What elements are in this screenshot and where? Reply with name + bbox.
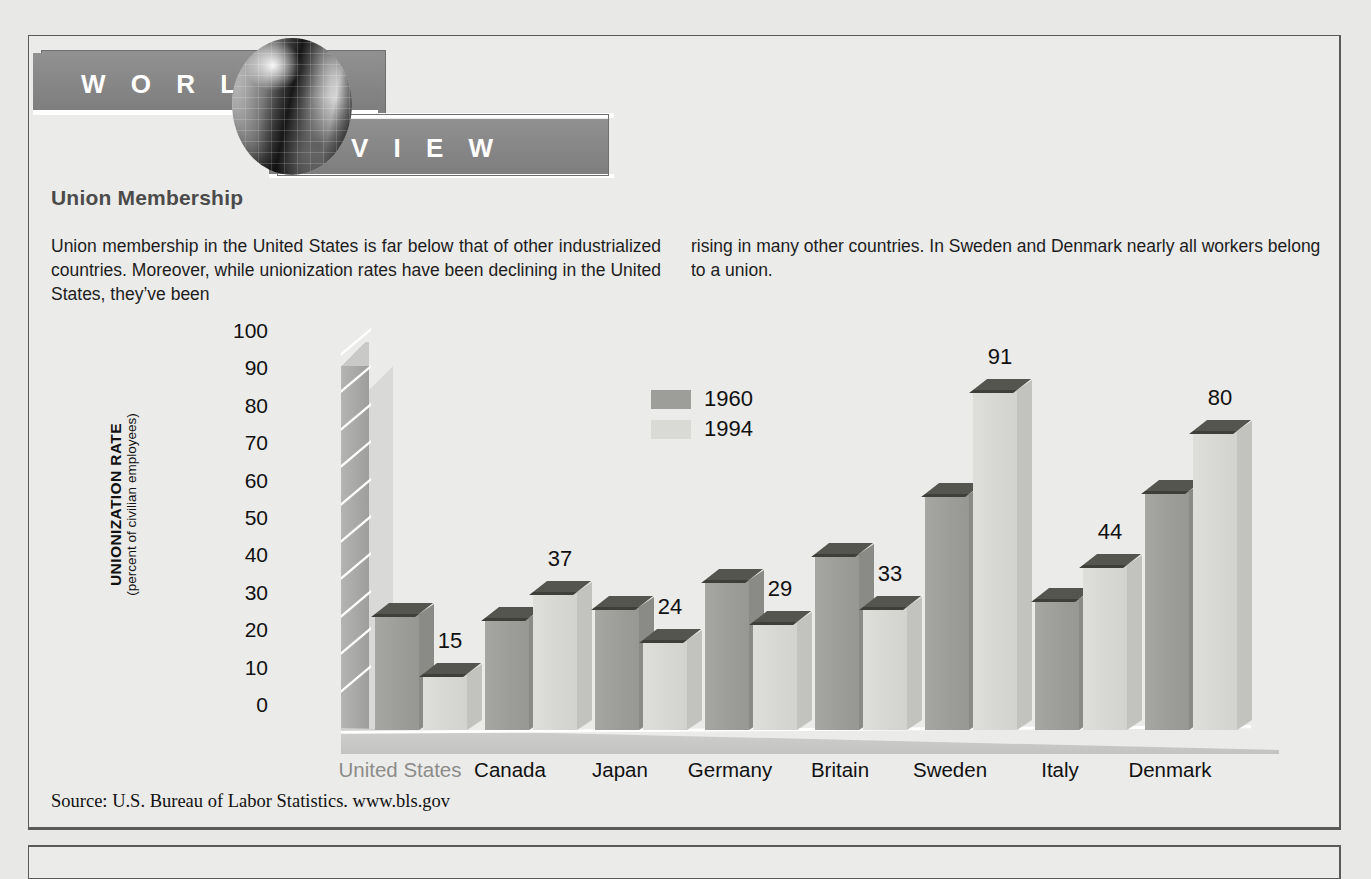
bar-value-label: 37 [525,546,595,572]
x-axis-labels: United StatesCanadaJapanGermanyBritainSw… [341,758,1301,788]
y-tick-label: 10 [216,656,277,680]
union-membership-bar-chart: UNIONIZATION RATE (percent of civilian e… [51,336,1321,766]
following-section-panel [28,845,1341,879]
bar-1994-canada [533,592,577,730]
bar-value-label: 91 [965,344,1035,370]
legend-swatch-1994 [651,420,691,439]
y-axis-wall [341,366,369,730]
bar-value-label: 33 [855,561,925,587]
bar-group: 33 [815,356,925,730]
legend-item-1960: 1960 [651,384,753,414]
bar-1960-canada [485,618,529,730]
bar-1994-japan [643,640,687,730]
y-axis-title-sub: (percent of civilian employees) [124,355,140,655]
bar-1960-sweden [925,494,969,730]
bar-1960-germany [705,580,749,730]
globe-icon [232,38,352,175]
chart-bars: 1537242933914480 [375,356,1255,730]
bar-value-label: 29 [745,576,815,602]
bar-1960-denmark [1145,491,1189,730]
bar-1960-japan [595,607,639,730]
y-tick-label: 60 [216,469,277,493]
y-tick-label: 0 [216,693,277,717]
worldview-banner: W O R L D V I E W [29,36,649,171]
bar-front [1083,565,1127,730]
bar-front [705,580,749,730]
bar-front [925,494,969,730]
y-axis-title-main: UNIONIZATION RATE [107,355,124,655]
y-axis-title: UNIONIZATION RATE (percent of civilian e… [107,355,140,655]
bar-side [797,611,812,730]
bar-1994-italy [1083,565,1127,730]
y-axis-wall-top [341,342,369,366]
chart-source-note: Source: U.S. Bureau of Labor Statistics.… [51,791,450,812]
y-tick-label: 80 [216,394,277,418]
bar-front [485,618,529,730]
legend-label-1960: 1960 [704,386,753,412]
bar-1994-united-states [423,674,467,730]
bar-1960-united-states [375,614,419,730]
bar-value-label: 15 [415,628,485,654]
bar-front [533,592,577,730]
bar-1994-sweden [973,390,1017,730]
article-paragraph-right: rising in many other countries. In Swede… [691,234,1321,282]
worldview-feature-panel: W O R L D V I E W Union Membership Union… [28,35,1341,830]
chart-legend: 19601994 [651,384,753,444]
y-tick-label: 50 [216,506,277,530]
page-title: Union Membership [51,186,243,210]
bar-front [973,390,1017,730]
bar-side [907,596,922,730]
y-tick-label: 90 [216,356,277,380]
bar-front [375,614,419,730]
bar-group: 37 [485,356,595,730]
bar-side [1017,380,1032,730]
bar-1994-britain [863,607,907,730]
legend-swatch-1960 [651,390,691,409]
bar-1994-germany [753,622,797,730]
bar-side [1127,555,1142,730]
bar-group: 15 [375,356,485,730]
bar-front [595,607,639,730]
bar-group: 44 [1035,356,1145,730]
bar-value-label: 24 [635,594,705,620]
y-tick-label: 100 [216,319,277,343]
y-tick-label: 40 [216,543,277,567]
y-tick-label: 30 [216,581,277,605]
bar-front [863,607,907,730]
legend-item-1994: 1994 [651,414,753,444]
article-paragraph-left: Union membership in the United States is… [51,234,661,306]
bar-1960-britain [815,554,859,730]
banner-view-text: V I E W [351,133,502,164]
bar-front [1193,431,1237,730]
bar-1960-italy [1035,599,1079,730]
x-label-denmark: Denmark [1085,758,1255,782]
bar-front [753,622,797,730]
bar-front [423,674,467,730]
bar-group: 80 [1145,356,1255,730]
bar-side [577,582,592,730]
legend-label-1994: 1994 [704,416,753,442]
bar-1994-denmark [1193,431,1237,730]
bar-side [687,630,702,730]
bar-front [643,640,687,730]
bar-side [1237,421,1252,730]
y-tick-label: 20 [216,618,277,642]
bar-value-label: 44 [1075,519,1145,545]
bar-value-label: 80 [1185,385,1255,411]
y-tick-label: 70 [216,431,277,455]
bar-front [1035,599,1079,730]
bar-side [467,664,482,730]
bar-front [1145,491,1189,730]
chart-plot-area: 1009080706050403020100 1537242933914480 … [279,356,1279,754]
bar-front [815,554,859,730]
bar-group: 91 [925,356,1035,730]
